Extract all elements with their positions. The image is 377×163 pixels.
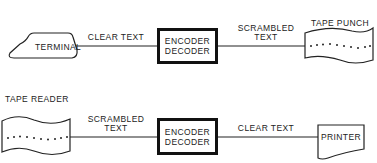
top-decoder-line: DECODER [165,46,210,56]
bottom-encoder-decoder-box: ENCODERDECODER [157,118,218,155]
terminal-label: TERMINAL [35,43,75,52]
tape-punch-shape [305,28,373,63]
top-encoder-line: ENCODER [165,36,210,46]
bottom-encoder-line: ENCODER [165,127,210,137]
printer-shape [318,125,364,159]
printer-label: PRINTER [320,133,362,142]
bottom-decoder-line: DECODER [165,137,210,147]
tape-reader-shape [2,117,70,155]
bottom-clear-text-label: CLEAR TEXT [236,124,296,133]
tape-punch-label: TAPE PUNCH [310,19,370,28]
top-scrambled-label: SCRAMBLEDTEXT [236,24,296,42]
tape-reader-label: TAPE READER [5,95,65,104]
top-clear-text-label: CLEAR TEXT [86,33,146,42]
top-encoder-decoder-box: ENCODERDECODER [157,28,218,64]
bottom-scrambled-label: SCRAMBLEDTEXT [86,115,146,133]
